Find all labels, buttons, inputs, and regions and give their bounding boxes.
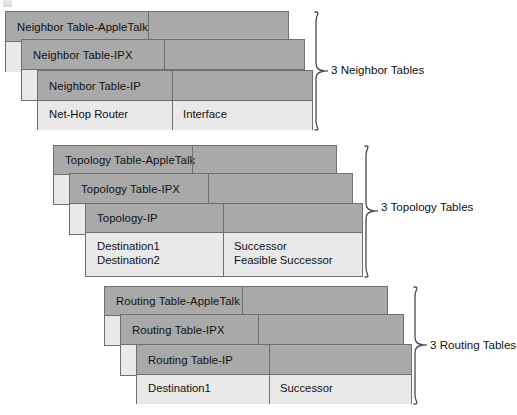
card-header-label: Topology Table-IPX <box>70 183 180 195</box>
brace-label-neighbor: 3 Neighbor Tables <box>331 63 424 76</box>
card-cell: Successor Feasible Successor <box>234 233 333 267</box>
card-routing-ip[interactable]: Routing Table-IP Destination1 Successor <box>136 344 412 404</box>
card-header-label: Routing Table-IP <box>137 354 233 366</box>
card-header: Neighbor Table-IPX <box>22 40 304 70</box>
card-header: Routing Table-IPX <box>121 315 403 345</box>
card-body: Net-Hop Router Interface <box>38 101 312 130</box>
card-header: Topology Table-IPX <box>70 174 352 204</box>
card-header-label: Neighbor Table-IP <box>38 80 141 92</box>
card-neighbor-ip[interactable]: Neighbor Table-IP Net-Hop Router Interfa… <box>37 70 313 130</box>
card-header: Topology Table-AppleTalk <box>54 146 336 175</box>
cell-text: Interface <box>183 107 227 121</box>
cell-text: Feasible Successor <box>234 253 333 267</box>
card-header-label: Routing Table-IPX <box>121 324 225 336</box>
card-header-label: Neighbor Table-IPX <box>22 49 133 61</box>
cell-text: Destination1 <box>97 239 160 253</box>
card-header-label: Routing Table-AppleTalk <box>105 295 240 307</box>
card-header: Neighbor Table-AppleTalk <box>6 12 288 42</box>
card-header: Neighbor Table-IP <box>38 71 312 101</box>
brace-topology <box>362 145 378 278</box>
card-cell: Destination1 Destination2 <box>97 233 160 267</box>
cell-text: Net-Hop Router <box>49 107 128 121</box>
cell-text: Destination1 <box>148 381 211 395</box>
card-header-label: Topology-IP <box>86 212 158 224</box>
card-header-label: Neighbor Table-AppleTalk <box>6 21 148 33</box>
brace-label-routing: 3 Routing Tables <box>430 338 516 351</box>
group-neighbor-tables: Neighbor Table-AppleTalk Neighbor Table-… <box>0 0 517 140</box>
card-body: Destination1 Destination2 Successor Feas… <box>86 233 362 276</box>
card-cell: Successor <box>280 375 333 395</box>
diagram-canvas: Neighbor Table-AppleTalk Neighbor Table-… <box>0 0 517 415</box>
card-header: Topology-IP <box>86 204 362 233</box>
group-routing-tables: Routing Table-AppleTalk Routing Table-IP… <box>0 280 517 415</box>
cell-text: Successor <box>280 381 333 395</box>
card-cell: Interface <box>183 101 227 121</box>
cell-text: Successor <box>234 239 333 253</box>
card-header: Routing Table-IP <box>137 345 411 375</box>
cell-text: Destination2 <box>97 253 160 267</box>
card-header-label: Topology Table-AppleTalk <box>54 154 195 166</box>
brace-neighbor <box>312 11 328 131</box>
group-topology-tables: Topology Table-AppleTalk Topology Table-… <box>0 140 517 280</box>
card-topology-ip[interactable]: Topology-IP Destination1 Destination2 Su… <box>85 203 363 277</box>
card-header: Routing Table-AppleTalk <box>105 287 387 316</box>
card-cell: Net-Hop Router <box>49 101 128 121</box>
brace-label-topology: 3 Topology Tables <box>381 200 473 213</box>
card-cell: Destination1 <box>148 375 211 395</box>
brace-routing <box>411 286 427 405</box>
card-body: Destination1 Successor <box>137 375 411 404</box>
